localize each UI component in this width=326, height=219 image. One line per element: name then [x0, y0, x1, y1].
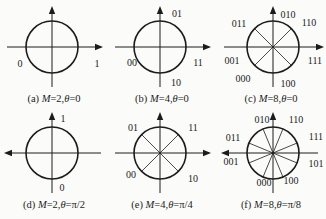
caption-mid: =8, [267, 93, 281, 104]
caption-suffix: =0 [286, 93, 297, 104]
symbol-label: 110 [289, 114, 304, 125]
y-axis-arrow-up-icon [157, 112, 163, 120]
panel-caption: (e) M=4,θ=π/4 [131, 198, 192, 212]
constellation-diagram-a: 01 [0, 2, 108, 92]
symbol-label: 0 [18, 58, 23, 69]
panel-d: 10(d) M=2,θ=π/2 [0, 108, 108, 212]
constellation-diagram-c: 010011110001111000100 [217, 2, 325, 92]
symbol-label: 011 [226, 132, 241, 143]
caption-mid: =8, [263, 199, 277, 210]
symbol-label: 100 [281, 78, 296, 89]
caption-suffix: =π/8 [282, 199, 301, 210]
figure-psk-constellations: 01(a) M=2,θ=001001110(b) M=4,θ=001001111… [0, 0, 326, 219]
symbol-label: 11 [193, 57, 203, 68]
symbol-label: 00 [127, 57, 137, 68]
caption-mid: =2, [50, 93, 64, 104]
constellation-diagram-b: 01001110 [108, 2, 216, 92]
caption-prefix: (c) [244, 93, 258, 104]
panel-caption: (c) M=8,θ=0 [244, 92, 297, 106]
symbol-label: 111 [308, 55, 322, 66]
symbol-label: 1 [95, 58, 100, 69]
x-axis-arrow-right-icon [203, 150, 211, 156]
x-axis-arrow-right-icon [316, 44, 324, 50]
symbol-label: 010 [281, 9, 296, 20]
caption-mid: =4, [159, 93, 173, 104]
symbol-label: 110 [302, 17, 317, 28]
constellation-diagram-f: 010110011111001101000100 [217, 108, 325, 198]
caption-var1: M [150, 93, 159, 104]
caption-var1: M [254, 199, 263, 210]
panel-f: 010110011111001101000100(f) M=8,θ=π/8 [216, 108, 326, 212]
y-axis-arrow-up-icon [157, 6, 163, 14]
panel-c: 010011110001111000100(c) M=8,θ=0 [216, 2, 326, 106]
y-axis-arrow-up-icon [49, 6, 55, 14]
caption-prefix: (f) [241, 199, 254, 210]
caption-mid: =4, [154, 199, 168, 210]
symbol-label: 10 [171, 77, 181, 88]
symbol-label: 001 [224, 156, 239, 167]
panel-caption: (f) M=8,θ=π/8 [241, 198, 301, 212]
panel-caption: (d) M=2,θ=π/2 [23, 198, 85, 212]
y-axis-arrow-up-icon [270, 112, 276, 120]
panel-b: 01001110(b) M=4,θ=0 [108, 2, 216, 106]
caption-prefix: (d) [23, 199, 38, 210]
caption-suffix: =0 [69, 93, 80, 104]
y-axis-arrow-up-icon [49, 112, 55, 120]
symbol-label: 0 [60, 182, 65, 193]
caption-prefix: (b) [135, 93, 150, 104]
symbol-label: 001 [225, 55, 240, 66]
symbol-label: 101 [309, 158, 324, 169]
symbol-label: 011 [232, 18, 247, 29]
x-axis-arrow-right-icon [95, 44, 103, 50]
panel-caption: (a) M=2,θ=0 [27, 92, 80, 106]
y-axis-arrow-up-icon [270, 6, 276, 14]
caption-prefix: (e) [131, 199, 145, 210]
caption-var1: M [38, 199, 47, 210]
symbol-label: 100 [284, 175, 299, 186]
caption-suffix: =0 [178, 93, 189, 104]
panel-grid: 01(a) M=2,θ=001001110(b) M=4,θ=001001111… [0, 2, 326, 212]
caption-suffix: =π/4 [173, 199, 192, 210]
caption-mid: =2, [47, 199, 61, 210]
x-axis-arrow-right-icon [203, 44, 211, 50]
symbol-label: 1 [61, 113, 66, 124]
symbol-label: 00 [126, 169, 136, 180]
caption-prefix: (a) [27, 93, 41, 104]
symbol-label: 010 [255, 114, 270, 125]
symbol-label: 10 [188, 173, 198, 184]
symbol-label: 11 [188, 122, 198, 133]
x-axis-arrow-left-icon [4, 150, 12, 156]
constellation-diagram-d: 10 [0, 108, 108, 198]
symbol-label: 111 [309, 131, 323, 142]
panel-caption: (b) M=4,θ=0 [135, 92, 189, 106]
symbol-label: 000 [257, 177, 272, 188]
panel-e: 01110010(e) M=4,θ=π/4 [108, 108, 216, 212]
panel-a: 01(a) M=2,θ=0 [0, 2, 108, 106]
symbol-label: 01 [172, 8, 182, 19]
constellation-diagram-e: 01110010 [108, 108, 216, 198]
caption-suffix: =π/2 [66, 199, 85, 210]
symbol-label: 01 [128, 122, 138, 133]
symbol-label: 000 [236, 73, 251, 84]
